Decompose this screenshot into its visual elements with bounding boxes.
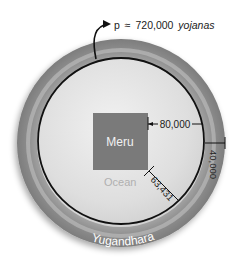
meru-label: Meru xyxy=(106,135,133,149)
meru-cosmology-diagram: Meru Ocean p ≈ 720,000 yojanas 80,000 40… xyxy=(0,0,241,262)
perimeter-title: p ≈ 720,000 yojanas xyxy=(114,19,215,31)
ocean-label: Ocean xyxy=(104,176,136,188)
arrow-head-icon xyxy=(103,20,111,28)
svg-text:40,000: 40,000 xyxy=(208,150,219,179)
svg-text:80,000: 80,000 xyxy=(160,119,191,130)
